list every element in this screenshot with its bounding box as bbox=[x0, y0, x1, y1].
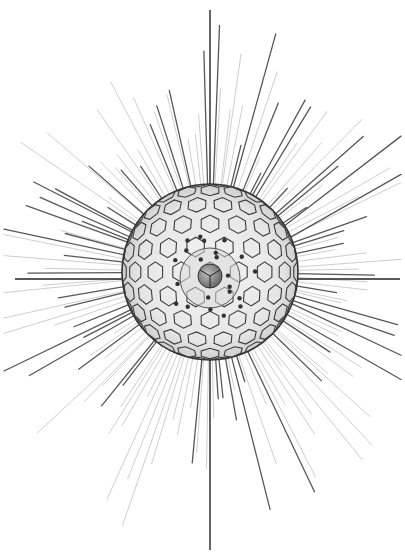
radiolarian-illustration bbox=[0, 0, 405, 558]
radiolarian-drawing bbox=[0, 0, 405, 558]
